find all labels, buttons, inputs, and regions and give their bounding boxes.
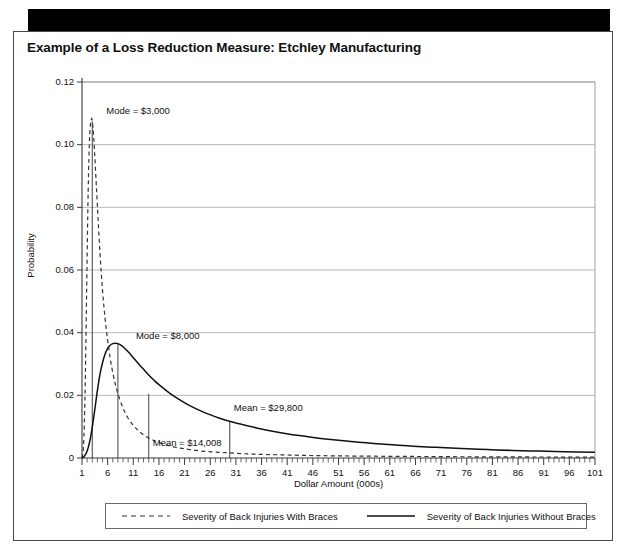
dashed-line-swatch (120, 511, 172, 521)
y-tick-label: 0.08 (34, 201, 74, 212)
chart-annotation: Mode = $3,000 (106, 105, 170, 116)
y-tick-label: 0.04 (34, 326, 74, 337)
chart-legend: Severity of Back Injuries With Braces Se… (105, 503, 587, 529)
legend-item-with-braces: Severity of Back Injuries With Braces (120, 511, 338, 522)
legend-item-without-braces: Severity of Back Injuries Without Braces (365, 511, 596, 522)
chart-annotation: Mean = $14,008 (153, 437, 222, 448)
chart-annotation: Mode = $8,000 (136, 330, 200, 341)
y-tick-label: 0.12 (34, 76, 74, 87)
axes (82, 78, 595, 458)
chart-page: Example of a Loss Reduction Measure: Etc… (0, 0, 628, 554)
y-axis-title: Probability (25, 206, 36, 306)
x-tick-label: 101 (580, 467, 610, 478)
data-curves (82, 118, 595, 458)
y-tick-label: 0.10 (34, 138, 74, 149)
gridlines (82, 82, 595, 458)
x-axis-title: Dollar Amount (000s) (82, 478, 595, 489)
y-tick-label: 0 (34, 452, 74, 463)
legend-label-with-braces: Severity of Back Injuries With Braces (182, 511, 338, 522)
y-tick-label: 0.06 (34, 264, 74, 275)
axis-ticks (77, 82, 595, 465)
y-tick-label: 0.02 (34, 389, 74, 400)
curve-with-braces (82, 118, 595, 458)
chart-annotation: Mean = $29,800 (234, 402, 303, 413)
plot-area: Probability Dollar Amount (000s) 00.020.… (0, 0, 628, 554)
legend-label-without-braces: Severity of Back Injuries Without Braces (427, 511, 596, 522)
solid-line-swatch (365, 511, 417, 521)
annotation-markers (92, 121, 229, 458)
